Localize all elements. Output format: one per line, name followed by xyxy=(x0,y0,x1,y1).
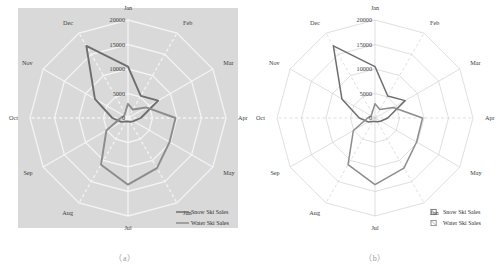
category-label-oct: Oct xyxy=(256,114,265,121)
panel-b: JanFebMarAprMayJunJulAugSepOctNovDec 050… xyxy=(250,0,500,277)
category-label-may: May xyxy=(223,169,235,176)
tick-label-5000: 5000 xyxy=(360,90,372,97)
radar-chart-b: JanFebMarAprMayJunJulAugSepOctNovDec 050… xyxy=(250,0,500,277)
category-label-jan: Jan xyxy=(371,4,379,11)
tick-label-15000: 15000 xyxy=(357,41,372,48)
category-label-oct: Oct xyxy=(9,114,18,121)
category-label-apr: Apr xyxy=(238,114,248,121)
category-label-feb: Feb xyxy=(430,19,439,26)
category-label-jan: Jan xyxy=(124,4,132,11)
tick-label-5000: 5000 xyxy=(113,90,125,97)
tick-label-20000: 20000 xyxy=(110,16,125,23)
panel-b-caption: （b） xyxy=(250,252,500,263)
category-label-sep: Sep xyxy=(23,169,32,176)
category-label-jul: Jul xyxy=(371,224,379,231)
category-label-aug: Aug xyxy=(309,209,320,216)
legend-label-snow-ski-sales[interactable]: Snow Ski Sales xyxy=(443,209,481,215)
tick-label-10000: 10000 xyxy=(110,65,125,72)
tick-label-0: 0 xyxy=(122,114,125,121)
tick-label-15000: 15000 xyxy=(110,41,125,48)
category-label-sep: Sep xyxy=(270,169,279,176)
category-label-nov: Nov xyxy=(269,59,281,66)
category-label-dec: Dec xyxy=(63,19,73,26)
category-label-jul: Jul xyxy=(124,224,132,231)
category-label-mar: Mar xyxy=(470,59,480,66)
radar-chart-figure: JanFebMarAprMayJunJulAugSepOctNovDec 050… xyxy=(0,0,500,277)
legend-label-water-ski-sales[interactable]: Water Ski Sales xyxy=(191,220,230,226)
legend-label-snow-ski-sales[interactable]: Snow Ski Sales xyxy=(191,209,229,215)
category-label-feb: Feb xyxy=(183,19,192,26)
category-label-nov: Nov xyxy=(22,59,34,66)
legend-label-water-ski-sales[interactable]: Water Ski Sales xyxy=(443,220,482,226)
category-label-may: May xyxy=(470,169,482,176)
tick-label-20000: 20000 xyxy=(357,16,372,23)
tick-label-10000: 10000 xyxy=(357,65,372,72)
radar-chart-a: JanFebMarAprMayJunJulAugSepOctNovDec 050… xyxy=(0,0,250,277)
category-label-apr: Apr xyxy=(485,114,495,121)
category-label-aug: Aug xyxy=(62,209,73,216)
category-label-mar: Mar xyxy=(223,59,233,66)
panel-a-caption: （a） xyxy=(0,252,250,263)
panel-a: JanFebMarAprMayJunJulAugSepOctNovDec 050… xyxy=(0,0,250,277)
category-label-dec: Dec xyxy=(310,19,320,26)
tick-label-0: 0 xyxy=(369,114,372,121)
